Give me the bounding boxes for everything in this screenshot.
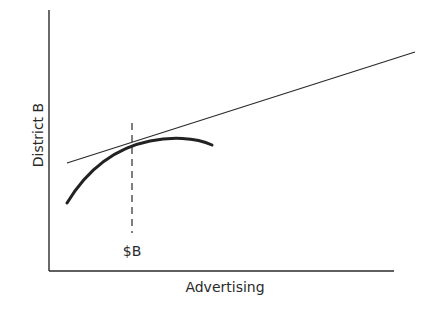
x-axis-label: Advertising (185, 280, 264, 294)
tangent-line (67, 52, 415, 163)
advertising-response-diagram (0, 0, 436, 311)
y-axis-label: District B (31, 103, 45, 167)
response-curve (67, 138, 212, 203)
marker-label: $B (123, 244, 142, 258)
